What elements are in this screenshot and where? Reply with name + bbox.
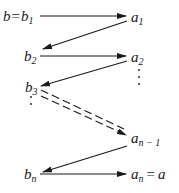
- symbol-a-final: a: [158, 166, 166, 182]
- subscript: 2: [139, 56, 144, 67]
- node-an-minus-1: an − 1: [131, 131, 160, 148]
- subscript: 1: [28, 15, 33, 26]
- vertical-ellipsis-a: [138, 69, 140, 85]
- symbol-a: a: [131, 130, 139, 146]
- subscript: 2: [32, 55, 37, 66]
- symbol-a: a: [131, 9, 139, 25]
- node-an-equals-a: an=a: [131, 167, 165, 184]
- subscript: 3: [33, 86, 38, 97]
- symbol-b: b: [3, 8, 11, 24]
- symbol-a: a: [131, 166, 139, 182]
- subscript: n: [139, 173, 144, 184]
- subscript: n: [32, 173, 37, 184]
- symbol-b: b: [25, 79, 33, 95]
- arrow-a1-b2: [43, 21, 127, 49]
- subscript: 1: [139, 16, 144, 27]
- dashed-arrow-b3-an1: [41, 90, 126, 135]
- symbol-b: b: [24, 48, 32, 64]
- symbol-b: b: [24, 166, 32, 182]
- equals-sign: =: [12, 8, 20, 24]
- arrow-an1-bn: [43, 146, 127, 172]
- node-b2: b2: [24, 49, 37, 66]
- subscript: n − 1: [139, 137, 161, 148]
- vertical-ellipsis-b: [30, 96, 32, 105]
- arrow-a2-b3: [41, 61, 127, 86]
- node-b3: b3: [25, 80, 38, 97]
- symbol-a: a: [131, 49, 139, 65]
- equals-sign: =: [147, 166, 155, 182]
- node-bn: bn: [24, 167, 37, 184]
- node-a1: a1: [131, 10, 144, 27]
- node-a2: a2: [131, 50, 144, 67]
- node-b-equals-b1: b=b1: [3, 9, 33, 26]
